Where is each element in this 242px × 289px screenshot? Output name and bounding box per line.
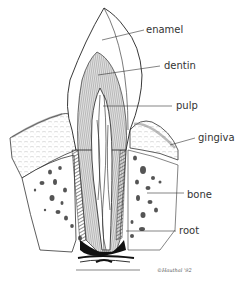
- label-enamel: enamel: [146, 25, 183, 35]
- artist-signature: ©Hauthal '92: [157, 267, 192, 273]
- label-root: root: [179, 226, 199, 236]
- label-pulp: pulp: [176, 101, 198, 111]
- tooth-diagram: [0, 0, 242, 289]
- bone-right: [128, 150, 178, 250]
- label-gingiva: gingiva: [198, 133, 235, 143]
- label-bone: bone: [187, 190, 212, 200]
- label-dentin: dentin: [164, 61, 196, 71]
